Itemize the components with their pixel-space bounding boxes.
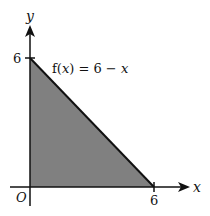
x-axis-label: x — [193, 179, 201, 195]
function-label: f(x) = 6 − x — [52, 61, 129, 76]
origin-label: O — [16, 190, 27, 205]
graph: y x O 6 6 f(x) = 6 − x — [0, 0, 210, 216]
y-intercept-label: 6 — [13, 51, 21, 66]
x-intercept-label: 6 — [150, 193, 158, 208]
y-axis-label: y — [25, 8, 35, 24]
